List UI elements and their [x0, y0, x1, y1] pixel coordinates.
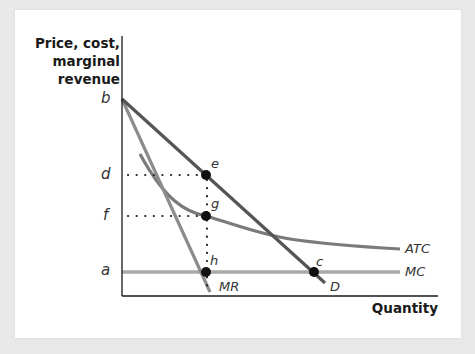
- point-label-c: c: [316, 254, 323, 269]
- demand-curve: [122, 99, 325, 283]
- y-axis-label-line1: Price, cost,: [20, 34, 120, 52]
- y-axis-label-line2: marginal: [20, 52, 120, 70]
- point-label-h: h: [210, 253, 218, 268]
- point-g: [201, 211, 211, 221]
- curve-label-mr: MR: [219, 279, 239, 294]
- tick-f: f: [103, 206, 108, 224]
- curve-label-d: D: [330, 279, 340, 294]
- mr-curve: [122, 99, 210, 292]
- point-h: [201, 267, 211, 277]
- point-label-g: g: [211, 196, 219, 211]
- x-axis-label: Quantity: [340, 300, 438, 316]
- y-axis-label: Price, cost, marginal revenue: [20, 34, 120, 88]
- point-e: [201, 170, 211, 180]
- curve-label-atc: ATC: [405, 241, 430, 256]
- tick-a: a: [101, 261, 110, 279]
- y-axis-label-line3: revenue: [20, 70, 120, 88]
- curve-label-mc: MC: [405, 264, 425, 279]
- tick-b: b: [101, 89, 111, 107]
- tick-d: d: [101, 165, 111, 183]
- point-label-e: e: [211, 156, 219, 171]
